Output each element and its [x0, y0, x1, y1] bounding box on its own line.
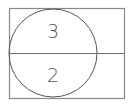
diagram-canvas: 3 2: [0, 0, 130, 111]
bottom-half-label: 2: [47, 64, 59, 86]
top-half-label: 3: [47, 20, 59, 42]
